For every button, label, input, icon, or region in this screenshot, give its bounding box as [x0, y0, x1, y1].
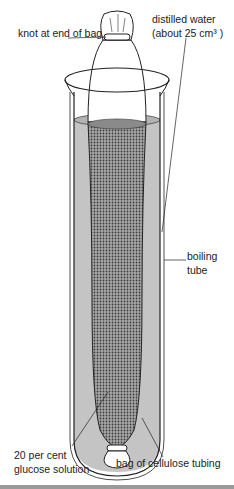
- label-knot: knot at end of bag: [18, 27, 102, 40]
- label-bag: bag of cellulose tubing: [116, 457, 221, 470]
- label-water-1: distilled water: [152, 13, 216, 26]
- label-glucose-2: glucose solution: [14, 463, 89, 476]
- label-glucose-1: 20 per cent: [14, 449, 67, 462]
- osmosis-apparatus-drawing: [0, 0, 234, 489]
- bag-top: [88, 40, 146, 122]
- bottom-border: [0, 485, 234, 489]
- label-water-2: (about 25 cm³ ): [152, 27, 223, 40]
- label-tube-2: tube: [187, 264, 207, 277]
- cellulose-bag: [88, 122, 146, 447]
- label-tube-1: boiling: [187, 250, 217, 263]
